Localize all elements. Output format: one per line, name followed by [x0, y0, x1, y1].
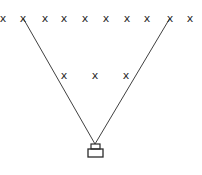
top-row-markers: xxxxxxxxxx	[0, 12, 194, 25]
device-lens-box	[91, 144, 100, 149]
field-of-view-diagram: xxxxxxxxxx xxx	[0, 0, 202, 175]
middle-row-markers: xxx	[61, 69, 130, 82]
top-row-x-marker: x	[82, 12, 89, 25]
top-row-x-marker: x	[42, 12, 49, 25]
left-ray-line	[23, 18, 95, 144]
device-body-box	[88, 149, 103, 157]
top-row-x-marker: x	[0, 12, 7, 25]
middle-row-x-marker: x	[92, 69, 99, 82]
camera-device-icon	[88, 144, 103, 157]
middle-row-x-marker: x	[61, 69, 68, 82]
top-row-x-marker: x	[187, 12, 194, 25]
right-ray-line	[95, 18, 170, 144]
top-row-x-marker: x	[103, 12, 110, 25]
top-row-x-marker: x	[124, 12, 131, 25]
middle-row-x-marker: x	[123, 69, 130, 82]
top-row-x-marker: x	[61, 12, 68, 25]
top-row-x-marker: x	[144, 12, 151, 25]
top-row-x-marker: x	[167, 12, 174, 25]
